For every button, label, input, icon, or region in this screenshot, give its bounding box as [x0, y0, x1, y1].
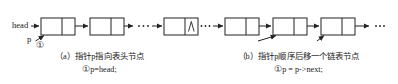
panel-b-caption: （b）指针p顺序后移一个链表节点	[199, 53, 398, 62]
panel-b-diagram	[199, 0, 398, 52]
panel-a-caption: （a）指针p指向表头节点	[0, 53, 199, 62]
panel-b-code-marker: ①	[274, 64, 282, 74]
panel-a-diagram	[0, 0, 199, 52]
panel-b-code-text: p = p->next;	[282, 65, 323, 74]
pointer-p-label: p	[27, 35, 31, 44]
panel-b-code-line: ①p = p->next;	[199, 65, 398, 74]
head-label: head	[12, 21, 28, 30]
panel-a-code-line: ①p=head;	[0, 65, 199, 74]
linked-list-figure: head p ① （a）指针p指向表头节点 ①p=head;	[0, 0, 398, 84]
figure-panel-a: head p ① （a）指针p指向表头节点 ①p=head;	[0, 0, 199, 84]
step-marker-a: ①	[36, 41, 44, 50]
panel-a-code-text: p=head;	[90, 65, 116, 74]
figure-panel-b: *p p p ① （b）指针p顺序后移一个链表节点 ①p = p->next;	[199, 0, 398, 84]
